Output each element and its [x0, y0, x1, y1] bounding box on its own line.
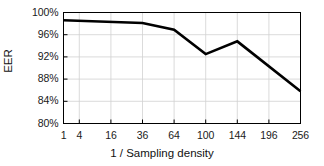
x-tick-label: 256	[281, 129, 321, 141]
y-tick-label: 88%	[38, 72, 59, 84]
y-tick-label: 84%	[38, 94, 59, 106]
y-tick-label: 100%	[32, 6, 58, 18]
plot-area-frame	[64, 13, 301, 124]
y-tick-label: 92%	[38, 50, 59, 62]
y-tick-label: 96%	[38, 28, 59, 40]
chart-container: 100%96%92%88%84%80% 14163664100144196256…	[0, 0, 324, 166]
x-tick-marks	[64, 13, 301, 124]
y-axis-title: EER	[2, 31, 14, 91]
eer-data-line	[64, 20, 301, 91]
x-axis-title: 1 / Sampling density	[0, 147, 324, 159]
gridlines	[64, 13, 301, 124]
y-tick-label: 80%	[38, 117, 59, 129]
